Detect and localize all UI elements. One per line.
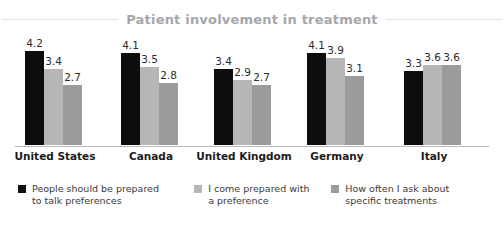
bar-value-label: 2.8 [160,70,177,81]
x-label-germany: Germany [310,150,363,162]
title-rule-left [2,19,118,20]
page-title: Patient involvement in treatment [126,12,378,27]
bar-italy-series-1[interactable]: 3.6 [423,34,442,145]
x-axis-line [15,146,489,147]
bar-italy-series-0[interactable]: 3.3 [404,34,423,145]
bar-value-label: 3.1 [346,63,363,74]
bar-rect [214,69,233,145]
bar-value-label: 3.9 [327,45,344,56]
bar-rect [326,58,345,145]
bar-united-kingdom-series-1[interactable]: 2.9 [233,34,252,145]
bar-canada-series-0[interactable]: 4.1 [121,34,140,145]
legend-label: How often I ask aboutspecific treatments [345,183,449,207]
bar-value-label: 3.5 [141,54,158,65]
bar-value-label: 4.1 [122,40,139,51]
x-axis-labels: United States Canada United Kingdom Germ… [15,150,489,168]
bar-rect [121,53,140,145]
bar-rect [307,53,326,145]
legend-item-i-come-prepared[interactable]: I come prepared witha preference [194,183,331,207]
bar-value-label: 3.4 [45,56,62,67]
legend-swatch-icon [331,185,339,193]
plot-area: 4.2 3.4 2.7 4.1 3.5 2.8 3.4 [15,34,489,146]
bar-value-label: 4.2 [26,38,43,49]
bar-rect [233,80,252,145]
bar-italy-series-2[interactable]: 3.6 [442,34,461,145]
title-rule-right [386,19,502,20]
legend-label: People should be preparedto talk prefere… [32,183,159,207]
bar-rect [159,83,178,145]
bar-canada-series-1[interactable]: 3.5 [140,34,159,145]
bar-rect [423,65,442,145]
bar-group-united-states: 4.2 3.4 2.7 [25,34,82,145]
bar-rect [63,85,82,145]
bar-united-states-series-2[interactable]: 2.7 [63,34,82,145]
bar-rect [25,51,44,145]
bar-value-label: 3.4 [215,56,232,67]
x-label-united-kingdom: United Kingdom [196,150,291,162]
bar-rect [345,76,364,145]
bar-value-label: 2.7 [64,72,81,83]
legend-label-line2: to talk preferences [32,195,122,206]
legend-label-line1: I come prepared with [208,183,309,194]
bar-value-label: 3.3 [405,58,422,69]
x-label-italy: Italy [421,150,447,162]
legend-label: I come prepared witha preference [208,183,309,207]
legend-label-line1: How often I ask about [345,183,449,194]
bar-group-germany: 4.1 3.9 3.1 [307,34,364,145]
bar-group-united-kingdom: 3.4 2.9 2.7 [214,34,271,145]
legend-label-line2: a preference [208,195,268,206]
bar-value-label: 3.6 [443,52,460,63]
bar-united-kingdom-series-2[interactable]: 2.7 [252,34,271,145]
bar-germany-series-2[interactable]: 3.1 [345,34,364,145]
legend-swatch-icon [18,185,26,193]
bar-rect [44,69,63,145]
bar-value-label: 2.7 [253,72,270,83]
bar-rect [404,71,423,145]
x-label-united-states: United States [15,150,96,162]
bar-rect [140,67,159,145]
bar-group-canada: 4.1 3.5 2.8 [121,34,178,145]
bar-value-label: 3.6 [424,52,441,63]
chart-title-row: Patient involvement in treatment [0,8,504,30]
x-label-canada: Canada [129,150,173,162]
bar-value-label: 4.1 [308,40,325,51]
bar-germany-series-0[interactable]: 4.1 [307,34,326,145]
bar-value-label: 2.9 [234,67,251,78]
bar-rect [252,85,271,145]
bar-germany-series-1[interactable]: 3.9 [326,34,345,145]
legend-item-people-should-be-prepared[interactable]: People should be preparedto talk prefere… [18,183,194,207]
bar-canada-series-2[interactable]: 2.8 [159,34,178,145]
legend-label-line1: People should be prepared [32,183,159,194]
legend-label-line2: specific treatments [345,195,437,206]
bar-united-states-series-0[interactable]: 4.2 [25,34,44,145]
bar-united-kingdom-series-0[interactable]: 3.4 [214,34,233,145]
chart-legend: People should be preparedto talk prefere… [18,183,488,207]
bar-group-italy: 3.3 3.6 3.6 [404,34,461,145]
bar-rect [442,65,461,145]
bar-united-states-series-1[interactable]: 3.4 [44,34,63,145]
legend-swatch-icon [194,185,202,193]
legend-item-how-often-i-ask[interactable]: How often I ask aboutspecific treatments [331,183,488,207]
